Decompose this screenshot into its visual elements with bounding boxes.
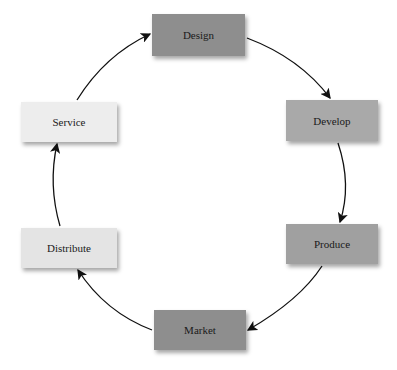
arrow-market-to-distribute bbox=[78, 270, 152, 330]
node-service: Service bbox=[21, 102, 117, 142]
arrow-design-to-develop bbox=[247, 38, 330, 98]
node-market: Market bbox=[154, 310, 246, 350]
node-distribute: Distribute bbox=[21, 228, 117, 268]
arrow-distribute-to-service bbox=[53, 144, 60, 226]
node-design: Design bbox=[152, 14, 245, 56]
arrow-develop-to-produce bbox=[338, 143, 346, 222]
node-develop: Develop bbox=[286, 100, 378, 141]
arrow-service-to-design bbox=[77, 34, 150, 100]
arrow-produce-to-market bbox=[248, 266, 322, 330]
node-produce: Produce bbox=[286, 224, 378, 264]
